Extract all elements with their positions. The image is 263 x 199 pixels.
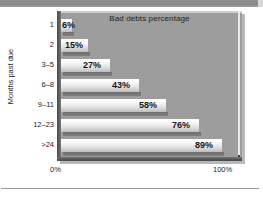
gridline-100-percent <box>238 11 240 159</box>
bar-shadow <box>63 52 90 56</box>
bar-value-label: 89% <box>195 140 213 150</box>
y-axis-spine <box>57 11 61 161</box>
y-category-label: 1 <box>4 20 54 29</box>
bar-value-label: 15% <box>65 40 83 50</box>
bar-value-label: 27% <box>83 60 101 70</box>
chart-figure: Months past due 1 2 3–5 6–8 9–11 12–23 >… <box>0 0 263 199</box>
y-category-label: 6–8 <box>4 80 54 89</box>
bar-value-label: 58% <box>139 100 157 110</box>
bars-group: 6% 15% 27% 43% <box>61 19 242 157</box>
x-axis-tick-label-max: 100% <box>213 165 232 174</box>
bar-shadow <box>63 72 112 76</box>
x-axis-tick-label-min: 0% <box>50 165 61 174</box>
bar-shadow <box>63 152 224 156</box>
bar-shadow <box>63 92 141 96</box>
scan-top-band <box>0 0 258 7</box>
bar-shadow <box>63 112 168 116</box>
y-category-label: 9–11 <box>4 100 54 109</box>
plot-area: Bad debts percentage 6% 15% 27% <box>57 11 242 161</box>
y-axis-category-labels: 1 2 3–5 6–8 9–11 12–23 >24 <box>2 11 54 161</box>
bar-value-label: 76% <box>172 120 190 130</box>
bar-value-label: 6% <box>62 20 75 30</box>
y-category-label: 2 <box>4 40 54 49</box>
plot-background: Bad debts percentage 6% 15% 27% <box>57 11 242 161</box>
x-axis-spine <box>57 157 242 161</box>
y-category-label: 12–23 <box>4 120 54 129</box>
y-category-label: 3–5 <box>4 60 54 69</box>
scan-top-band-tail <box>258 0 263 7</box>
page-divider-rule <box>1 188 259 189</box>
bar-shadow <box>63 132 201 136</box>
bar-value-label: 43% <box>112 80 130 90</box>
bar-shadow <box>63 32 74 36</box>
y-category-label: >24 <box>4 140 54 149</box>
plot-top-highlight <box>59 11 242 13</box>
